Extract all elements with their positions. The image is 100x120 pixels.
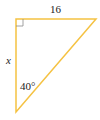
triangle-figure [0,0,100,120]
right-triangle [16,19,96,112]
top-side-label: 16 [50,4,61,15]
right-angle-marker [16,19,23,26]
angle-label: 40° [20,81,35,92]
left-side-label: x [6,55,11,66]
